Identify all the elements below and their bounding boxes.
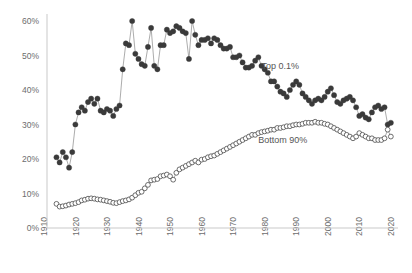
point-top-2017 xyxy=(382,105,387,110)
point-top-1931 xyxy=(111,113,116,118)
point-top-1975 xyxy=(249,63,254,68)
y-tick-40: 40% xyxy=(22,85,39,95)
x-tick-2000: 2000 xyxy=(323,217,333,236)
x-tick-1940: 1940 xyxy=(134,217,144,236)
annotation-top-0-1: Top 0.1% xyxy=(262,61,300,71)
point-top-1917 xyxy=(66,165,71,170)
point-top-1983 xyxy=(275,84,280,89)
point-top-1956 xyxy=(190,18,195,23)
y-axis-tick-labels: 0%10%20%30%40%50%60% xyxy=(22,16,39,233)
point-top-1938 xyxy=(133,51,138,56)
y-tick-50: 50% xyxy=(22,51,39,61)
x-tick-1990: 1990 xyxy=(291,217,301,236)
point-top-1990 xyxy=(297,82,302,87)
x-tick-2020: 2020 xyxy=(386,217,396,236)
point-bottom-1942 xyxy=(146,182,151,187)
point-top-1998 xyxy=(322,94,327,99)
wealth-share-chart: 0%10%20%30%40%50%60% 1910192019301940195… xyxy=(0,0,412,273)
x-tick-1980: 1980 xyxy=(260,217,270,236)
point-top-1937 xyxy=(130,18,135,23)
x-tick-2010: 2010 xyxy=(354,217,364,236)
x-tick-1960: 1960 xyxy=(197,217,207,236)
y-tick-0: 0% xyxy=(27,223,40,233)
point-top-1922 xyxy=(82,108,87,113)
point-bottom-1950 xyxy=(171,177,176,182)
annotation-bottom-90: Bottom 90% xyxy=(258,135,307,145)
point-bottom-2017 xyxy=(382,136,387,141)
point-top-1972 xyxy=(240,60,245,65)
point-top-1919 xyxy=(73,122,78,127)
y-tick-30: 30% xyxy=(22,120,39,130)
y-tick-10: 10% xyxy=(22,189,39,199)
point-top-1914 xyxy=(57,160,62,165)
point-top-1913 xyxy=(54,155,59,160)
x-tick-1920: 1920 xyxy=(71,217,81,236)
point-top-1955 xyxy=(186,56,191,61)
point-top-1977 xyxy=(256,55,261,60)
point-top-1924 xyxy=(89,96,94,101)
point-top-2001 xyxy=(331,93,336,98)
point-top-1961 xyxy=(205,36,210,41)
series-line-bottom xyxy=(56,122,390,207)
point-top-1939 xyxy=(136,56,141,61)
point-top-1958 xyxy=(196,43,201,48)
series-data-points xyxy=(54,18,394,209)
y-tick-60: 60% xyxy=(22,16,39,26)
point-top-2012 xyxy=(366,117,371,122)
point-top-1943 xyxy=(149,25,154,30)
point-top-1930 xyxy=(107,108,112,113)
point-top-1986 xyxy=(284,94,289,99)
point-top-1942 xyxy=(145,44,150,49)
point-bottom-2018 xyxy=(385,127,390,132)
point-bottom-2019 xyxy=(388,134,393,139)
chart-canvas: 0%10%20%30%40%50%60% 1910192019301940195… xyxy=(0,0,412,273)
point-top-1915 xyxy=(60,150,65,155)
point-top-2019 xyxy=(388,120,393,125)
point-top-1916 xyxy=(63,155,68,160)
x-tick-1930: 1930 xyxy=(102,217,112,236)
point-top-1950 xyxy=(171,29,176,34)
point-top-1954 xyxy=(183,30,188,35)
y-tick-20: 20% xyxy=(22,154,39,164)
point-top-1926 xyxy=(95,96,100,101)
x-tick-1970: 1970 xyxy=(228,217,238,236)
point-top-1920 xyxy=(76,110,81,115)
point-top-1934 xyxy=(120,67,125,72)
point-top-1936 xyxy=(126,43,131,48)
point-top-1987 xyxy=(287,87,292,92)
point-top-1918 xyxy=(70,150,75,155)
x-axis-tick-labels: 1910192019301940195019601970198019902000… xyxy=(39,217,396,236)
point-top-1933 xyxy=(117,103,122,108)
point-top-1945 xyxy=(155,67,160,72)
point-top-2000 xyxy=(328,86,333,91)
point-top-1971 xyxy=(237,53,242,58)
point-top-2008 xyxy=(354,105,359,110)
point-top-1925 xyxy=(92,101,97,106)
point-top-1982 xyxy=(272,79,277,84)
point-top-2013 xyxy=(369,110,374,115)
x-tick-1950: 1950 xyxy=(165,217,175,236)
series-line-top xyxy=(56,21,390,168)
point-top-1947 xyxy=(161,43,166,48)
point-top-1962 xyxy=(208,41,213,46)
point-top-1941 xyxy=(142,63,147,68)
point-top-1964 xyxy=(215,37,220,42)
point-top-2007 xyxy=(350,98,355,103)
point-top-1957 xyxy=(193,32,198,37)
point-top-1968 xyxy=(227,44,232,49)
